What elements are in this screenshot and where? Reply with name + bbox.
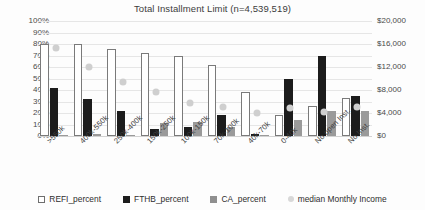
y-axis-right-tick: $0 [377, 132, 425, 140]
y-axis-right-tick: $8,000 [377, 86, 425, 94]
y-axis-right-tick: $20,000 [377, 17, 425, 25]
gridline [37, 33, 372, 34]
refi-swatch-icon [38, 196, 45, 203]
bar-refi-percent [241, 92, 250, 136]
legend-label: FTHB_percent [134, 194, 188, 204]
legend-item-fthb[interactable]: FTHB_percent [123, 194, 188, 204]
income-marker [119, 79, 126, 86]
legend-label: CA_percent [221, 194, 265, 204]
income-marker [186, 99, 193, 106]
gridline [37, 21, 372, 22]
legend-label: REFI_percent [49, 194, 101, 204]
legend-item-refi[interactable]: REFI_percent [38, 194, 101, 204]
y-axis-right-tick: $4,000 [377, 109, 425, 117]
income-marker [320, 108, 327, 115]
gridline [37, 44, 372, 45]
bar-refi-percent [141, 53, 150, 136]
income-marker [253, 110, 260, 117]
fthb-swatch-icon [123, 196, 130, 203]
legend-item-income[interactable]: median Monthly Income [288, 194, 387, 204]
income-marker [52, 44, 59, 51]
bar-fthb-percent [318, 56, 327, 137]
legend-item-ca[interactable]: CA_percent [210, 194, 265, 204]
bar-refi-percent [40, 44, 49, 136]
chart-container: Total Installment Limit (n=4,539,519) 0%… [0, 0, 425, 210]
ca-swatch-icon [210, 196, 217, 203]
bar-refi-percent [208, 65, 217, 136]
income-marker [86, 64, 93, 71]
chart-legend: REFI_percentFTHB_percentCA_percentmedian… [0, 194, 425, 204]
income-swatch-icon [288, 196, 294, 202]
legend-label: median Monthly Income [298, 194, 387, 204]
bar-refi-percent [308, 106, 317, 136]
y-axis-right-tick: $12,000 [377, 63, 425, 71]
income-marker [287, 105, 294, 112]
y-axis-right-tick: $16,000 [377, 40, 425, 48]
income-marker [354, 104, 361, 111]
income-marker [153, 89, 160, 96]
chart-title: Total Installment Limit (n=4,539,519) [0, 3, 425, 14]
bar-refi-percent [74, 44, 83, 136]
bar-refi-percent [174, 56, 183, 137]
income-marker [220, 104, 227, 111]
bar-refi-percent [275, 115, 284, 136]
bar-refi-percent [107, 49, 116, 136]
